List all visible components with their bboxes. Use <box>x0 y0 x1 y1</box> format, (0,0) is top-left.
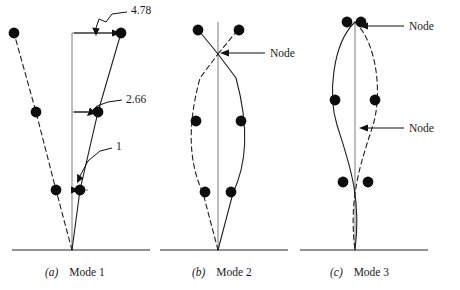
mode-shape-dashed-b <box>191 54 218 250</box>
mass-dot <box>370 95 381 106</box>
node-label-upper-c: Node <box>409 20 434 32</box>
node-label-lower-c: Node <box>409 122 434 134</box>
mass-dot <box>200 187 211 198</box>
mass-dot <box>342 17 353 28</box>
mass-dot <box>338 177 349 188</box>
panel-letter-c: (c) <box>330 266 343 279</box>
mass-dot <box>9 28 20 39</box>
node-label-upper-b: Node <box>270 47 295 59</box>
middle-amplitude-label: 2.66 <box>126 93 146 105</box>
mass-dot <box>116 28 127 39</box>
mass-dot <box>234 25 245 36</box>
panel-letter-a: (a) <box>45 266 59 279</box>
panel-caption-a: (a) Mode 1 <box>45 266 105 279</box>
mass-dot <box>236 116 247 127</box>
mass-dot <box>51 185 62 196</box>
node-pointer-upper-c <box>359 23 404 30</box>
top-amplitude-label: 4.78 <box>131 4 151 16</box>
panel-letter-b: (b) <box>192 266 206 279</box>
mass-dot <box>226 187 237 198</box>
panel-label-a: Mode 1 <box>69 266 105 278</box>
panel-caption-c: (c) Mode 3 <box>330 266 389 279</box>
mode-shape-solid-b-top <box>200 32 218 54</box>
panel-mode-3: Node Node (c) Mode 3 <box>300 17 434 279</box>
mode-shape-solid-b <box>218 54 245 250</box>
mass-dot <box>330 95 341 106</box>
mode-shape-solid-c <box>333 22 357 250</box>
leader-line-bottom-amplitude-a <box>80 148 112 176</box>
bottom-amplitude-label: 1 <box>116 140 122 152</box>
mass-dot <box>75 185 86 196</box>
mass-dot <box>363 177 374 188</box>
mass-dot <box>193 25 204 36</box>
mass-dot <box>31 107 42 118</box>
reference-frame-a <box>72 33 121 250</box>
panel-mode-2: Node (b) Mode 2 <box>160 22 295 279</box>
mass-dot <box>191 116 202 127</box>
mode-shape-dashed-a <box>14 33 72 250</box>
node-pointer-lower-c <box>359 125 404 132</box>
panel-caption-b: (b) Mode 2 <box>192 266 252 279</box>
panel-mode-1: 4.78 2.66 1 (a) Mode 1 <box>9 4 152 279</box>
panel-label-c: Mode 3 <box>354 266 390 278</box>
mode-shape-solid-a <box>72 33 121 250</box>
panel-label-b: Mode 2 <box>216 266 252 278</box>
mode-shape-figure: 4.78 2.66 1 (a) Mode 1 <box>0 0 460 290</box>
node-pointer-upper-b <box>220 50 265 57</box>
